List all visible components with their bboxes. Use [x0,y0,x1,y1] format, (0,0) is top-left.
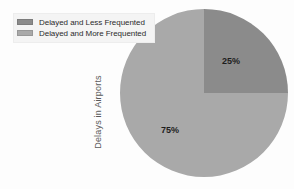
legend-swatch-less-frequented [17,19,33,25]
legend-label-less-frequented: Delayed and Less Frequented [39,18,145,27]
vertical-axis-label: Delays in Airports [93,75,103,149]
legend-item-more-frequented[interactable]: Delayed and More Frequented [17,28,151,38]
legend-swatch-more-frequented [17,30,33,36]
chart-canvas: Delayed and Less Frequented Delayed and … [0,0,294,189]
pie-slice-value-label-75: 75% [161,125,179,135]
chart-legend: Delayed and Less Frequented Delayed and … [13,13,155,43]
legend-label-more-frequented: Delayed and More Frequented [39,29,146,38]
pie-slice-value-label-25: 25% [222,56,240,66]
legend-item-less-frequented[interactable]: Delayed and Less Frequented [17,17,151,27]
pie-slice-less-frequented[interactable] [204,9,288,93]
